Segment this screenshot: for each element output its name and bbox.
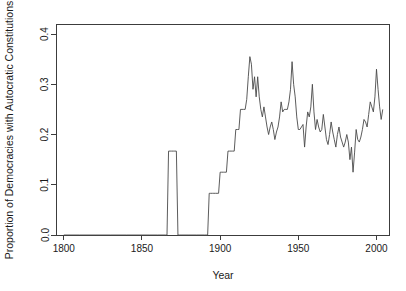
y-tick-label: 0.3 xyxy=(40,77,51,91)
line-chart: 18001850190019502000 0.00.10.20.30.4 Yea… xyxy=(0,0,406,291)
y-tick-label: 0.0 xyxy=(40,228,51,242)
x-tick-label: 2000 xyxy=(365,243,388,254)
y-tick-label: 0.2 xyxy=(40,127,51,141)
x-tick-label: 1900 xyxy=(209,243,232,254)
y-tick-label: 0.4 xyxy=(40,27,51,41)
y-tick-label: 0.1 xyxy=(40,177,51,191)
y-axis-ticks: 0.00.10.20.30.4 xyxy=(40,27,57,242)
x-axis-title: Year xyxy=(212,269,234,281)
x-tick-label: 1950 xyxy=(287,243,310,254)
x-tick-label: 1850 xyxy=(131,243,154,254)
chart-container: 18001850190019502000 0.00.10.20.30.4 Yea… xyxy=(0,0,406,291)
data-series-layer xyxy=(64,57,383,235)
x-axis-ticks: 18001850190019502000 xyxy=(53,235,388,254)
x-tick-label: 1800 xyxy=(53,243,76,254)
series-line-0 xyxy=(64,57,383,235)
y-axis-title: Proportion of Democracies with Autocrati… xyxy=(3,1,15,260)
